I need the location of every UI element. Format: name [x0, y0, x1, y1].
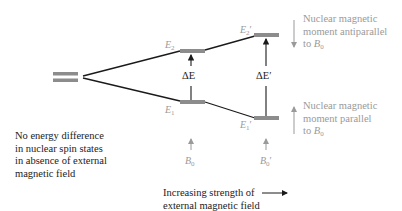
level-bar-e2-prime: [254, 33, 279, 37]
annotation-antiparallel: Nuclear magnetic moment antiparallel to …: [303, 13, 387, 54]
label-b0-prime: B0′: [260, 155, 272, 168]
degenerate-levels: [53, 72, 78, 82]
label-delta-e: ΔE: [182, 70, 195, 81]
annotation-increasing-field: Increasing strength of external magnetic…: [163, 187, 260, 211]
level-bar-e2: [180, 49, 205, 53]
label-e1: E1: [165, 104, 175, 117]
label-e2: E2: [165, 39, 175, 52]
label-e1-prime: E1′: [240, 119, 252, 132]
annotation-no-field: No energy difference in nuclear spin sta…: [15, 130, 107, 180]
level-bar-e1-prime: [254, 116, 279, 120]
label-b0: B0: [185, 155, 195, 168]
label-e2-prime: E2′: [240, 24, 252, 37]
label-delta-e-prime: ΔE′: [256, 70, 271, 81]
level-bar-e1: [180, 100, 205, 104]
annotation-parallel: Nuclear magnetic moment parallel to B0: [303, 100, 377, 141]
